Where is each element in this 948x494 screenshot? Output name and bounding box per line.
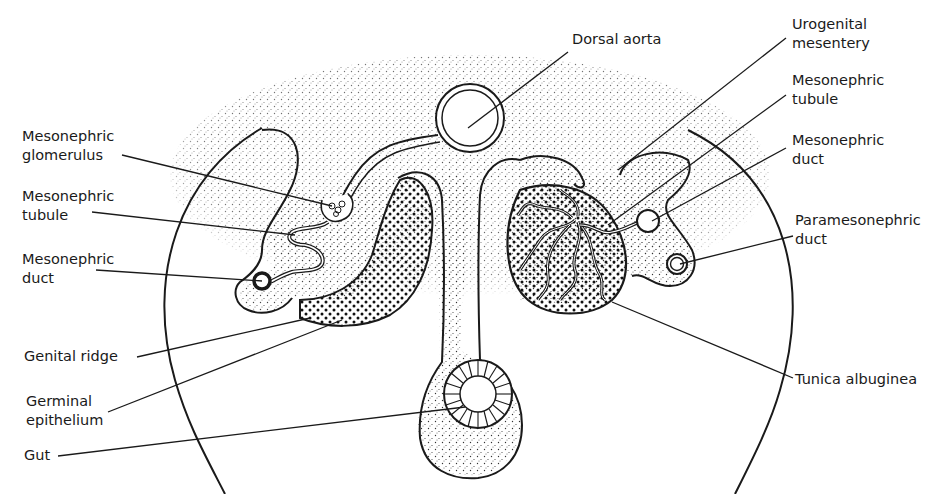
label-mesonephric-glomerulus: Mesonephric glomerulus [22, 127, 114, 165]
label-line: Dorsal aorta [572, 30, 661, 49]
label-line: Mesonephric [792, 71, 884, 90]
label-gut: Gut [24, 446, 50, 465]
gut-tube [444, 360, 512, 428]
label-mesonephric-duct-left: Mesonephric duct [22, 250, 114, 288]
label-line: Urogenital [792, 15, 870, 34]
label-line: glomerulus [22, 146, 114, 165]
label-urogenital-mesentery: Urogenital mesentery [792, 15, 870, 53]
label-line: Gut [24, 446, 50, 465]
label-paramesonephric-duct: Paramesonephric duct [795, 211, 921, 249]
label-line: mesentery [792, 34, 870, 53]
label-line: Mesonephric [792, 131, 884, 150]
label-genital-ridge: Genital ridge [24, 347, 118, 366]
label-line: Germinal [26, 392, 103, 411]
label-line: tubule [792, 90, 884, 109]
label-line: epithelium [26, 411, 103, 430]
label-line: Mesonephric [22, 187, 114, 206]
label-line: Tunica albuginea [795, 370, 917, 389]
label-tunica-albuginea: Tunica albuginea [795, 370, 917, 389]
label-line: duct [22, 269, 114, 288]
label-line: Paramesonephric [795, 211, 921, 230]
label-germinal-epithelium: Germinal epithelium [26, 392, 103, 430]
label-mesonephric-tubule-left: Mesonephric tubule [22, 187, 114, 225]
label-line: Mesonephric [22, 250, 114, 269]
label-mesonephric-duct-right: Mesonephric duct [792, 131, 884, 169]
label-line: duct [792, 150, 884, 169]
right-mesonephric-duct [637, 210, 659, 232]
label-line: Mesonephric [22, 127, 114, 146]
label-mesonephric-tubule-right: Mesonephric tubule [792, 71, 884, 109]
label-line: Genital ridge [24, 347, 118, 366]
embryo-section-diagram: Mesonephric glomerulus Mesonephric tubul… [0, 0, 948, 494]
label-dorsal-aorta: Dorsal aorta [572, 30, 661, 49]
paramesonephric-duct-vessel [667, 254, 687, 274]
label-line: duct [795, 230, 921, 249]
label-line: tubule [22, 206, 114, 225]
